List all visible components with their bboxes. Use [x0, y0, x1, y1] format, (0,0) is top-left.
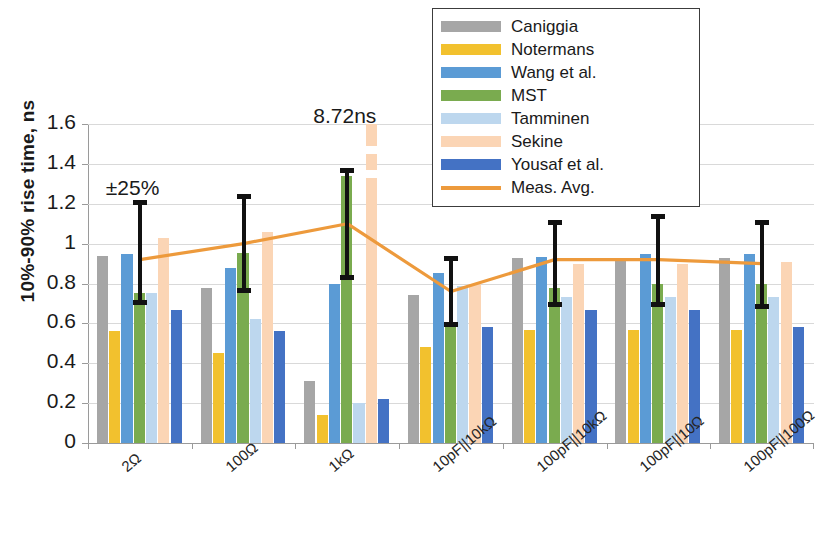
x-tick-mark: [607, 443, 608, 449]
x-tick-mark: [710, 443, 711, 449]
error-bar: [755, 220, 769, 310]
y-tick-label: 0.2: [14, 389, 76, 413]
error-bar-stem: [656, 214, 660, 308]
error-bar-stem: [345, 168, 349, 280]
bar: [781, 262, 792, 443]
bar: [665, 297, 676, 443]
error-bar-cap-top: [548, 220, 562, 225]
legend-item-label: MST: [511, 86, 547, 106]
bar-broken: [366, 124, 377, 443]
bar: [213, 353, 224, 443]
bar: [304, 381, 315, 443]
legend-item-label: Yousaf et al.: [511, 155, 604, 175]
error-bar-cap-bottom: [133, 300, 147, 305]
x-tick-mark: [295, 443, 296, 449]
legend-item[interactable]: Sekine: [441, 130, 691, 153]
chart-legend: CaniggiaNotermansWang et al.MSTTamminenS…: [432, 8, 700, 207]
error-bar-stem: [553, 220, 557, 308]
error-bar-cap-top: [237, 194, 251, 199]
bar: [615, 258, 626, 443]
bar: [250, 319, 261, 443]
bar: [378, 399, 389, 443]
bar: [171, 310, 182, 443]
y-tick-label: 1: [14, 230, 76, 254]
legend-item-label: Tamminen: [511, 109, 589, 129]
bar: [677, 264, 688, 443]
error-bar: [133, 200, 147, 306]
bar: [536, 257, 547, 443]
legend-item[interactable]: Wang et al.: [441, 61, 691, 84]
legend-swatch-icon: [441, 159, 501, 170]
legend-swatch-icon: [441, 90, 501, 101]
chart-annotation: 8.72ns: [313, 104, 376, 128]
bar: [317, 415, 328, 443]
error-bar-stem: [242, 194, 246, 294]
bar: [433, 273, 444, 443]
legend-item-label: Sekine: [511, 132, 563, 152]
bar: [329, 284, 340, 444]
x-tick-label: 1kΩ: [325, 445, 357, 475]
legend-swatch-icon: [441, 136, 501, 147]
chart-annotation: ±25%: [106, 176, 160, 200]
legend-swatch-icon: [441, 67, 501, 78]
bar: [146, 293, 157, 443]
error-bar: [444, 256, 458, 328]
bar: [445, 325, 456, 443]
legend-item[interactable]: Meas. Avg.: [441, 176, 691, 199]
bar: [109, 331, 120, 443]
y-tick-label: 1.4: [14, 150, 76, 174]
y-tick-label: 1.6: [14, 110, 76, 134]
x-tick-mark: [192, 443, 193, 449]
error-bar-cap-top: [340, 168, 354, 173]
legend-item-label: Meas. Avg.: [511, 178, 595, 198]
bar: [274, 331, 285, 443]
error-bar-stem: [138, 200, 142, 306]
bar: [744, 254, 755, 443]
bar: [652, 284, 663, 444]
y-tick-label: 0: [14, 429, 76, 453]
bar: [549, 288, 560, 444]
bar: [353, 403, 364, 443]
bar: [134, 293, 145, 443]
bar: [201, 288, 212, 444]
legend-item[interactable]: MST: [441, 84, 691, 107]
error-bar-cap-bottom: [548, 302, 562, 307]
legend-swatch-icon: [441, 186, 501, 190]
x-tick-mark: [503, 443, 504, 449]
bar: [457, 286, 468, 444]
error-bar: [237, 194, 251, 294]
bar: [420, 347, 431, 443]
bar: [561, 297, 572, 443]
bar: [640, 254, 651, 443]
bar: [628, 330, 639, 443]
y-tick-label: 0.8: [14, 270, 76, 294]
bar: [408, 295, 419, 443]
legend-item-label: Notermans: [511, 40, 594, 60]
bar: [719, 258, 730, 443]
legend-item-label: Caniggia: [511, 17, 578, 37]
bar: [97, 256, 108, 443]
legend-item[interactable]: Caniggia: [441, 15, 691, 38]
bar: [524, 330, 535, 443]
legend-item[interactable]: Notermans: [441, 38, 691, 61]
legend-item[interactable]: Yousaf et al.: [441, 153, 691, 176]
bar: [731, 330, 742, 443]
x-tick-label: 100Ω: [222, 439, 261, 475]
error-bar-cap-bottom: [444, 322, 458, 327]
bar: [262, 232, 273, 443]
error-bar-cap-top: [133, 200, 147, 205]
legend-item[interactable]: Tamminen: [441, 107, 691, 130]
bar: [768, 297, 779, 443]
error-bar: [548, 220, 562, 308]
error-bar-cap-bottom: [237, 288, 251, 293]
error-bar-cap-bottom: [755, 304, 769, 309]
x-tick-mark: [88, 443, 89, 449]
bar: [158, 238, 169, 443]
error-bar: [651, 214, 665, 308]
bar: [225, 268, 236, 443]
legend-item-label: Wang et al.: [511, 63, 596, 83]
bar: [512, 258, 523, 443]
x-tick-mark: [399, 443, 400, 449]
error-bar-stem: [760, 220, 764, 310]
